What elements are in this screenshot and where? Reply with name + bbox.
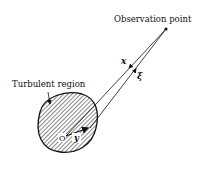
vector-x-label: x xyxy=(120,56,127,66)
observation-point-label: Observation point xyxy=(114,14,192,24)
vector-xi-line xyxy=(90,29,166,128)
observation-point-dot xyxy=(164,27,167,30)
origin-label: O xyxy=(59,134,66,143)
turbulence-diagram: Observation point Turbulent region O x ξ… xyxy=(0,0,207,173)
vector-xi-label: ξ xyxy=(137,71,143,81)
turbulent-region-label: Turbulent region xyxy=(12,79,86,89)
vector-y-label: y xyxy=(73,133,80,143)
turbulent-region-shape xyxy=(38,93,97,153)
